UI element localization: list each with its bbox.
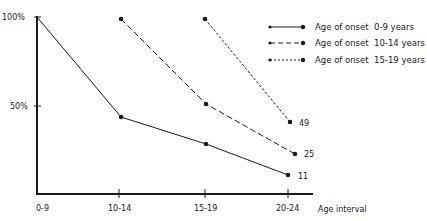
legend: Age of onset 0-9 years Age of onset 10-1… [268, 22, 425, 65]
x-label-10-14: 10-14 [108, 204, 131, 213]
series-onset-0-9: 11 [37, 17, 308, 181]
end-label-10-14: 25 [304, 150, 314, 159]
data-point [204, 142, 209, 147]
data-point [293, 152, 298, 157]
data-point [204, 102, 209, 107]
x-label-0-9: 0-9 [36, 204, 49, 213]
legend-item-10-14: Age of onset 10-14 years [268, 38, 425, 48]
legend-label: Age of onset 10-14 years [315, 38, 425, 48]
x-label-15-19: 15-19 [194, 204, 217, 213]
data-point [119, 17, 124, 22]
y-label-50: 50% [10, 102, 28, 111]
legend-item-0-9: Age of onset 0-9 years [268, 22, 414, 32]
legend-label: Age of onset 15-19 years [315, 55, 425, 65]
legend-label: Age of onset 0-9 years [315, 22, 415, 32]
x-label-20-24: 20-24 [276, 204, 299, 213]
data-point [119, 115, 124, 120]
end-label-15-19: 49 [299, 119, 309, 128]
legend-item-15-19: Age of onset 15-19 years [268, 55, 425, 65]
end-label-0-9: 11 [298, 172, 308, 181]
data-point [286, 173, 291, 178]
x-axis-title: Age interval [318, 205, 367, 214]
data-point [288, 120, 293, 125]
series-onset-15-19: 49 [203, 17, 309, 128]
y-label-100: 100% [2, 13, 25, 22]
data-point [203, 17, 208, 22]
line-chart: 100% 50% 0-9 10-14 15-19 20-24 Age inter… [0, 0, 427, 221]
series-onset-10-14: 25 [119, 17, 314, 159]
